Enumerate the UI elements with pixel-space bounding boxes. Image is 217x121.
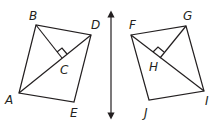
right-angle-mark-h xyxy=(153,47,164,52)
label-e: E xyxy=(70,106,78,120)
segment-gh xyxy=(160,26,186,58)
label-f: F xyxy=(129,18,137,32)
label-i: I xyxy=(205,94,209,108)
label-j: J xyxy=(142,106,148,120)
diagonal-ad xyxy=(19,35,91,93)
label-b: B xyxy=(29,9,37,23)
label-h: H xyxy=(149,60,158,74)
label-g: G xyxy=(183,9,192,23)
label-a: A xyxy=(4,93,13,107)
segment-bc xyxy=(36,25,62,58)
reflection-diagram: A B C D E F G H I J xyxy=(0,0,217,121)
label-c: C xyxy=(60,63,69,77)
diagonal-fi xyxy=(131,35,204,91)
label-d: D xyxy=(91,18,100,32)
